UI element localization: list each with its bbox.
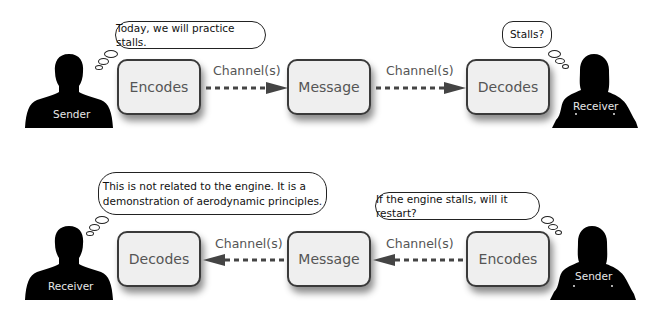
receiver-thought-line2: demonstration of aerodynamic principles.	[103, 194, 322, 208]
receiver-label: Receiver	[573, 100, 618, 112]
thought-circle-icon	[541, 216, 554, 224]
sender-thought-text: If the engine stalls, will it restart?	[376, 192, 539, 220]
channel-label: Channel(s)	[213, 63, 281, 78]
receiver-thought-bubble: Stalls?	[502, 21, 552, 48]
message-box: Message	[287, 231, 371, 287]
thought-circle-icon	[89, 224, 100, 231]
sender-thought-text: Today, we will practice stalls.	[116, 21, 265, 49]
thought-circle-icon	[104, 50, 118, 58]
channel-label: Channel(s)	[215, 236, 283, 251]
decodes-label: Decodes	[129, 251, 189, 267]
receiver-thought-text: Stalls?	[510, 27, 544, 41]
receiver-silhouette-icon	[552, 52, 638, 128]
receiver-thought-line1: This is not related to the engine. It is…	[103, 179, 322, 193]
sender-thought-bubble: Today, we will practice stalls.	[115, 21, 266, 49]
encodes-label: Encodes	[479, 251, 538, 267]
channel-label: Channel(s)	[386, 63, 454, 78]
arrow-left-icon	[373, 254, 466, 266]
receiver-label: Receiver	[48, 280, 93, 292]
sender-label: Sender	[575, 270, 612, 282]
message-label: Message	[298, 251, 359, 267]
decodes-label: Decodes	[478, 79, 538, 95]
thought-circle-icon	[86, 231, 94, 236]
arrow-left-icon	[203, 254, 287, 266]
message-box: Message	[287, 59, 371, 115]
thought-circle-icon	[95, 216, 109, 224]
decodes-box: Decodes	[466, 59, 550, 115]
receiver-thought-bubble: This is not related to the engine. It is…	[98, 172, 327, 215]
sender-thought-bubble: If the engine stalls, will it restart?	[375, 192, 540, 220]
thought-circle-icon	[95, 65, 103, 70]
thought-circle-icon	[98, 58, 109, 65]
encodes-label: Encodes	[130, 79, 189, 95]
arrow-right-icon	[374, 82, 466, 94]
sender-silhouette-icon	[550, 224, 636, 300]
arrow-right-icon	[204, 82, 288, 94]
channel-label: Channel(s)	[386, 236, 454, 251]
decodes-box: Decodes	[117, 231, 201, 287]
sender-label: Sender	[53, 108, 90, 120]
encodes-box: Encodes	[466, 231, 550, 287]
encodes-box: Encodes	[117, 59, 201, 115]
message-label: Message	[298, 79, 359, 95]
